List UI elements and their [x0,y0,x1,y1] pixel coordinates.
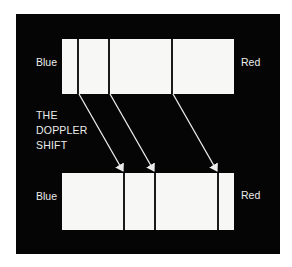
shift-arrows [0,0,292,267]
arrow-icon-3 [173,94,217,171]
